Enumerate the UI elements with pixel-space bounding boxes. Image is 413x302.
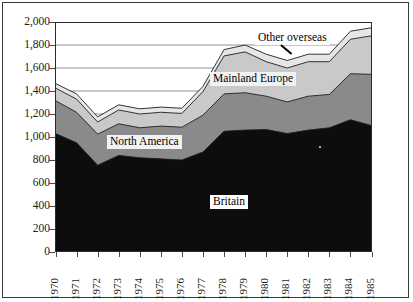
y-axis-tick-label: 200 xyxy=(33,223,50,235)
x-axis-tick-mark xyxy=(224,252,225,257)
x-axis-tick-mark xyxy=(56,252,57,257)
x-axis-tick-label: 1973 xyxy=(112,278,123,300)
x-axis: 1970197119721973197419751976197719781979… xyxy=(55,252,372,302)
y-axis-tick-label: 400 xyxy=(33,200,50,212)
x-axis-tick-label: 1985 xyxy=(365,278,376,300)
x-axis-tick-label: 1971 xyxy=(70,278,81,300)
x-axis-tick-mark xyxy=(350,252,351,257)
x-axis-tick-mark xyxy=(245,252,246,257)
x-axis-tick-label: 1975 xyxy=(154,278,165,300)
top-margin-filler xyxy=(2,0,409,2)
y-axis-tick-label: 2,000 xyxy=(24,16,50,28)
series-label-britain: Britain xyxy=(210,195,248,209)
x-axis-tick-label: 1981 xyxy=(280,278,291,300)
x-axis-tick-label: 1977 xyxy=(196,278,207,300)
x-axis-tick-label: 1970 xyxy=(49,278,60,300)
x-axis-tick-mark xyxy=(161,252,162,257)
y-axis-tick-label: 1,000 xyxy=(24,131,50,143)
x-axis-tick-mark xyxy=(308,252,309,257)
x-axis-tick-mark xyxy=(119,252,120,257)
x-axis-tick-label: 1976 xyxy=(175,278,186,300)
y-axis: 02004006008001,0001,2001,4001,6001,8002,… xyxy=(0,0,50,302)
x-axis-tick-label: 1979 xyxy=(238,278,249,300)
series-label-mainland-europe: Mainland Europe xyxy=(210,72,296,86)
stray-marker-dot xyxy=(319,146,321,148)
x-axis-tick-label: 1972 xyxy=(91,278,102,300)
stacked-area-plot xyxy=(55,22,372,252)
series-label-other-overseas: Other overseas xyxy=(255,31,330,45)
x-axis-tick-mark xyxy=(98,252,99,257)
y-axis-tick-label: 1,800 xyxy=(24,39,50,51)
x-axis-tick-mark xyxy=(287,252,288,257)
x-axis-tick-label: 1974 xyxy=(133,278,144,300)
plot-area xyxy=(55,22,372,252)
y-axis-tick-label: 1,600 xyxy=(24,62,50,74)
y-axis-tick-label: 800 xyxy=(33,154,50,166)
x-axis-tick-mark xyxy=(77,252,78,257)
x-axis-tick-label: 1982 xyxy=(301,278,312,300)
x-axis-tick-mark xyxy=(372,252,373,257)
x-axis-tick-mark xyxy=(140,252,141,257)
y-axis-tick-label: 1,200 xyxy=(24,108,50,120)
x-axis-tick-mark xyxy=(329,252,330,257)
x-axis-tick-label: 1983 xyxy=(322,278,333,300)
x-axis-tick-label: 1984 xyxy=(343,278,354,300)
x-axis-tick-label: 1978 xyxy=(217,278,228,300)
y-axis-tick-label: 600 xyxy=(33,177,50,189)
y-axis-tick-label: 1,400 xyxy=(24,85,50,97)
x-axis-tick-mark xyxy=(266,252,267,257)
x-axis-tick-mark xyxy=(203,252,204,257)
chart-figure: 02004006008001,0001,2001,4001,6001,8002,… xyxy=(0,0,413,302)
series-label-north-america: North America xyxy=(107,135,182,149)
x-axis-tick-label: 1980 xyxy=(259,278,270,300)
x-axis-tick-mark xyxy=(182,252,183,257)
